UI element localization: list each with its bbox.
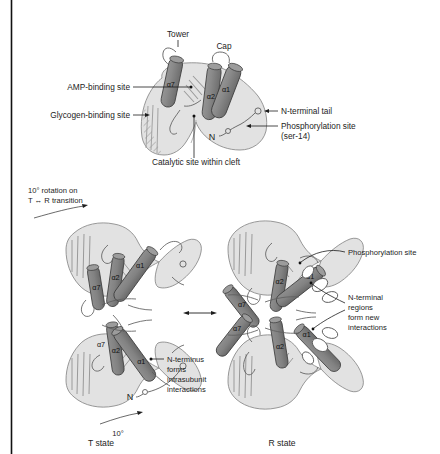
- t-nterm-line4: interactions: [167, 385, 206, 394]
- t-rotation-degrees: 10°: [112, 429, 123, 438]
- r-nterm-line2: regions: [348, 303, 373, 312]
- helix-label: α2: [112, 346, 120, 355]
- t-state-rotation-indicator: 10°: [100, 411, 143, 438]
- t-nterm-line3: intrasubunit: [167, 375, 207, 384]
- label-amp-binding-site: AMP-binding site: [67, 82, 130, 92]
- label-cap: Cap: [216, 41, 232, 51]
- monomer-panel: α7 α2 α1 N Tower Cap AMP-: [50, 29, 356, 167]
- transition-arrow: [183, 311, 217, 315]
- t-nterm-line2: forms: [167, 365, 186, 374]
- r-state-caption: R state: [268, 438, 295, 448]
- label-phosphorylation-site-detail: (ser-14): [281, 131, 310, 141]
- helix-label: α2: [275, 277, 283, 286]
- helix-label: α1: [303, 330, 311, 339]
- rotation-note-line1: 10° rotation on: [28, 186, 77, 195]
- label-phosphorylation-site: Phosphorylation site: [281, 121, 356, 131]
- helix-label: α1: [136, 261, 144, 270]
- t-state-caption: T state: [88, 438, 114, 448]
- helix-label: α2: [207, 92, 215, 101]
- r-state-panel: α7 α7 α2 α1 α1 α2: [213, 221, 417, 448]
- helix-label: α2: [111, 273, 119, 282]
- figure-root: α7 α2 α1 N Tower Cap AMP-: [0, 0, 440, 454]
- helix-label: α1: [222, 85, 230, 94]
- label-tower: Tower: [167, 29, 189, 39]
- label-n-terminal-tail: N-terminal tail: [281, 106, 332, 116]
- helix-label: α7: [92, 283, 100, 292]
- label-catalytic-site: Catalytic site within cleft: [152, 157, 241, 167]
- helix-label: α7: [233, 324, 241, 333]
- r-phospho-label: Phosphorylation site: [348, 248, 416, 257]
- t-nterm-chain-end: [136, 394, 143, 397]
- rotation-note: 10° rotation on T ↔ R transition: [28, 186, 88, 218]
- t-nterm-residue: [143, 390, 148, 395]
- helix-label: α7: [167, 80, 175, 89]
- r-nterm-line4: interactions: [348, 323, 387, 332]
- t-n-terminus-marker: N: [127, 392, 134, 402]
- phosphorylase-diagram: α7 α2 α1 N Tower Cap AMP-: [0, 0, 440, 454]
- helix-label: α7: [238, 300, 246, 309]
- n-terminus-marker: N: [209, 132, 216, 142]
- rotation-note-line2: T ↔ R transition: [28, 196, 83, 205]
- t-nterm-line1: N-terminus: [167, 355, 204, 364]
- helix-label: α2: [276, 342, 284, 351]
- t-lobe-upper-right: [155, 239, 201, 288]
- r-nterm-line1: N-terminal: [348, 293, 383, 302]
- t-state-panel: α2 α1 α7 α2 α1 α7: [66, 223, 207, 448]
- cap-loop: [212, 52, 229, 63]
- r-nterm-line3: form new: [348, 313, 380, 322]
- helix-label: α1: [137, 357, 145, 366]
- label-glycogen-binding-site: Glycogen-binding site: [50, 110, 130, 120]
- t-helix-alpha7-lower-label: α7: [97, 340, 105, 349]
